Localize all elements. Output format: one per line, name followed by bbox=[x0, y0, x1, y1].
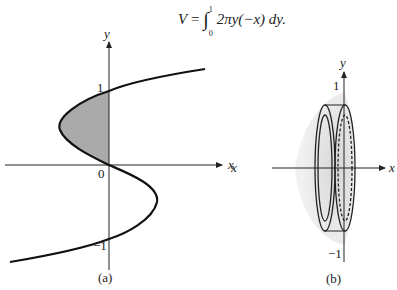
panel-a-y-label: y bbox=[104, 26, 110, 42]
panel-a-tick-neg-one: −1 bbox=[93, 238, 107, 254]
panel-b-tick-one: 1 bbox=[333, 78, 340, 94]
panel-b-x-label: x bbox=[389, 160, 395, 176]
panel-a-tick-one: 1 bbox=[97, 80, 104, 96]
panel-b-plot bbox=[272, 72, 385, 262]
panel-a-tick-zero: 0 bbox=[98, 166, 105, 182]
panel-b-y-label: y bbox=[340, 55, 346, 71]
panel-b-caption: (b) bbox=[326, 271, 341, 287]
panel-a-plot bbox=[5, 42, 222, 270]
panel-b-x-label-left: x bbox=[231, 160, 237, 176]
panel-a-caption: (a) bbox=[98, 270, 112, 286]
panel-b-tick-neg-one: −1 bbox=[328, 246, 342, 262]
